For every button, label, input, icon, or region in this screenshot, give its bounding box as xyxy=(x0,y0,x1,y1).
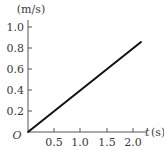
x-axis-var-label: t xyxy=(145,126,150,139)
y-tick-label: 1.0 xyxy=(7,21,25,34)
velocity-time-chart: 0.2 0.4 0.6 0.8 1.0 0.5 1.0 1.5 2.0 O (m… xyxy=(0,0,164,150)
origin-label: O xyxy=(12,129,21,142)
x-tick-label: 0.5 xyxy=(45,136,63,149)
y-ticks xyxy=(28,27,32,111)
y-tick-label: 0.2 xyxy=(7,105,25,118)
velocity-line xyxy=(28,42,141,132)
y-tick-label: 0.4 xyxy=(7,84,25,97)
y-axis-unit-label: (m/s) xyxy=(17,3,45,16)
y-tick-label: 0.8 xyxy=(7,42,25,55)
x-tick-label: 2.0 xyxy=(124,136,142,149)
x-axis-unit-label: (s) xyxy=(151,126,164,139)
x-tick-label: 1.5 xyxy=(98,136,116,149)
x-ticks xyxy=(54,128,133,132)
x-tick-label: 1.0 xyxy=(71,136,89,149)
y-tick-label: 0.6 xyxy=(7,63,25,76)
